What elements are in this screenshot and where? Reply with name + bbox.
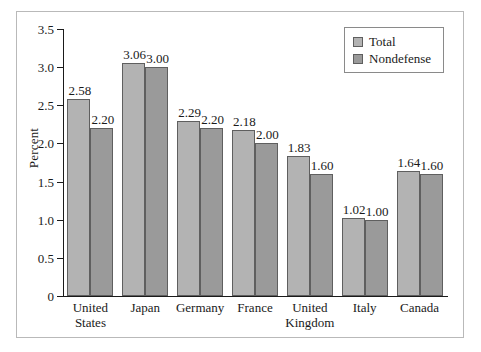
y-axis-tick-label: 3.0	[6, 61, 54, 74]
bar-value-label: 1.60	[421, 159, 444, 172]
bar	[287, 156, 310, 296]
bar	[397, 171, 420, 296]
bar-value-label: 2.58	[68, 84, 91, 97]
x-axis-category-line: States	[45, 316, 135, 331]
bar-value-label: 1.00	[366, 205, 389, 218]
bar	[145, 67, 168, 296]
x-axis-category-label: Canada	[375, 301, 465, 316]
bar-value-label: 3.00	[146, 52, 169, 65]
legend-item: Total	[353, 33, 431, 50]
bar	[67, 99, 90, 296]
bar	[255, 143, 278, 296]
legend-item: Nondefense	[353, 50, 431, 67]
bar-value-label: 1.02	[343, 203, 366, 216]
bar-value-label: 2.29	[178, 106, 201, 119]
bar	[200, 128, 223, 296]
chart-legend: TotalNondefense	[344, 27, 444, 73]
y-axis-tick-label: 1.0	[6, 214, 54, 227]
y-axis-tick-label: 0.5	[6, 252, 54, 265]
legend-item-label: Total	[369, 35, 396, 48]
y-axis-labels: 00.51.01.52.02.53.03.5	[4, 0, 54, 352]
legend-item-label: Nondefense	[369, 52, 431, 65]
bar	[420, 174, 443, 296]
legend-swatch-icon	[353, 37, 363, 47]
legend-swatch-icon	[353, 54, 363, 64]
x-axis-category-line: Kingdom	[265, 316, 355, 331]
bar-value-label: 1.60	[311, 159, 334, 172]
bar-value-label: 1.83	[288, 141, 311, 154]
bar	[310, 174, 333, 296]
bar-value-label: 3.06	[123, 48, 146, 61]
chart-figure: Percent 00.51.01.52.02.53.03.5 2.582.203…	[0, 0, 481, 352]
y-axis-tick-label: 2.0	[6, 137, 54, 150]
x-axis-category-line: Canada	[375, 301, 465, 316]
bar-value-label: 1.64	[398, 156, 421, 169]
bar	[122, 63, 145, 296]
x-axis-line	[63, 296, 448, 297]
bar	[342, 218, 365, 296]
y-axis-tick-label: 3.5	[6, 23, 54, 36]
y-axis-tick-label: 2.5	[6, 99, 54, 112]
bar-value-label: 2.00	[256, 128, 279, 141]
y-axis-tick-label: 1.5	[6, 176, 54, 189]
bar-value-label: 2.20	[201, 113, 224, 126]
bar	[365, 220, 388, 296]
bar-value-label: 2.20	[91, 113, 114, 126]
bar	[232, 130, 255, 296]
bar	[90, 128, 113, 296]
bar	[177, 121, 200, 296]
bar-value-label: 2.18	[233, 115, 256, 128]
